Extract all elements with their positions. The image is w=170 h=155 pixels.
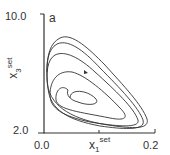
y-axis-label-sup: set: [5, 58, 14, 69]
x-axis-label-sub: 1: [95, 145, 99, 154]
y-axis-label-sub: 3: [14, 68, 23, 72]
x-tick-label-right: 0.2: [143, 140, 158, 151]
panel-label: a: [49, 12, 56, 24]
x-axis-label-sup: set: [99, 135, 110, 144]
y-axis-label: x3set: [6, 58, 22, 79]
x-axis-label: x1set: [89, 138, 110, 154]
y-tick-label-bottom: 2.0: [13, 125, 28, 136]
x-tick-label-left: 0.0: [34, 140, 49, 151]
trajectory: [47, 37, 148, 129]
direction-arrow: [84, 70, 88, 74]
y-axis-label-base: x: [6, 73, 20, 79]
y-tick-label-top: 10.0: [5, 11, 26, 22]
